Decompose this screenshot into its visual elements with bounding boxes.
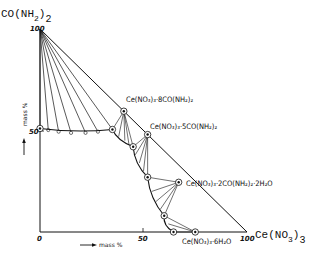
invariant-point-marker-dot [132,146,134,148]
y-axis-label: mass % [21,102,28,126]
solid-phase-marker-dot [177,181,179,183]
invariant-point-marker-dot [111,128,113,130]
right-component-label: Ce(NO3)3 [255,229,305,246]
solid-phase-marker-dot [146,133,148,135]
invariant-point-marker-dot [39,127,41,129]
tie-line [40,29,48,130]
x-axis-label: mass % [99,241,123,248]
x-tick-label-100: 100 [240,235,255,243]
y-tick-label-100: 100 [30,25,45,33]
origin-tick-label: 0 [37,235,42,243]
phase-diagram: CO(NH2)2 Ce(NO3)3 100 50 0 50 100 mass %… [0,0,322,262]
tie-line [164,182,178,215]
y-tick-label-50: 50 [29,128,39,136]
solubility-curve [40,128,174,232]
tie-line [40,29,112,129]
compound-label-ce-8urea: Ce(NO₃)₃·8CO(NH₂)₂ [126,95,193,104]
invariant-point-marker-dot [172,231,174,233]
composition-point [84,131,87,134]
solid-phase-marker-dot [194,231,196,233]
compound-label-ce-5urea: Ce(NO₃)₃·5CO(NH₂)₂ [150,122,217,131]
invariant-point-marker-dot [163,215,165,217]
compound-label-ce-6h2o: Ce(NO₃)₃·6H₂O [182,237,231,246]
solubility-curve-path [40,128,174,232]
invariant-point-marker-dot [146,176,148,178]
tie-line [139,135,147,163]
tie-line [148,177,179,182]
compound-label-ce-2urea-2h2o: Ce(NO₃)₃·2CO(NH₂)₂·2H₂O [186,179,273,188]
tie-line [40,29,86,133]
composition-point [69,131,72,134]
x-axis-arrow [80,243,97,247]
tie-line [40,29,98,132]
top-component-label: CO(NH2)2 [1,8,51,25]
y-axis-arrow [22,138,26,155]
x-tick-label-50: 50 [138,235,148,243]
tie-line [152,182,179,191]
solid-phase-marker-dot [123,110,125,112]
